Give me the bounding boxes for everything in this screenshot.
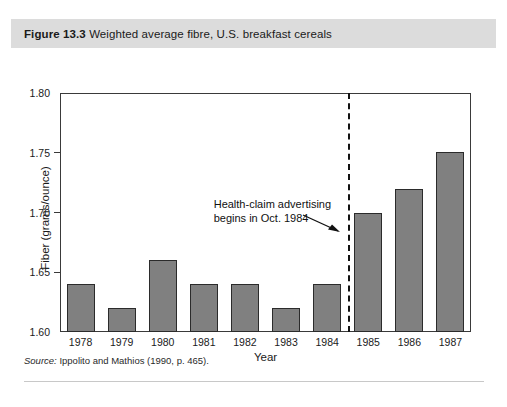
bar-1982: [231, 284, 259, 332]
annotation-line-1: Health-claim advertising: [214, 197, 331, 211]
y-tick-label: 1.65: [0, 266, 50, 278]
x-tick-label: 1980: [151, 336, 174, 348]
y-tick-mark: [54, 272, 61, 273]
bar-1985: [354, 213, 382, 333]
bar-1978: [67, 284, 95, 332]
y-tick-label: 1.75: [0, 147, 50, 159]
annotation-arrow-icon: [302, 214, 348, 236]
x-tick-label: 1986: [398, 336, 421, 348]
bar-1984: [313, 284, 341, 332]
y-tick-mark: [54, 152, 61, 153]
bar-1981: [190, 284, 218, 332]
figure-container: Figure 13.3 Weighted average fibre, U.S.…: [11, 11, 496, 383]
bar-1980: [149, 260, 177, 332]
x-tick-label: 1985: [357, 336, 380, 348]
x-tick-label: 1981: [192, 336, 215, 348]
x-tick-label: 1978: [69, 336, 92, 348]
bar-1983: [272, 308, 300, 332]
x-tick-label: 1987: [439, 336, 462, 348]
bar-1979: [108, 308, 136, 332]
figure-title-bar: Figure 13.3 Weighted average fibre, U.S.…: [11, 19, 496, 48]
x-tick-label: 1979: [110, 336, 133, 348]
figure-title-text: Weighted average fibre, U.S. breakfast c…: [89, 28, 332, 40]
x-tick-label: 1983: [274, 336, 297, 348]
chart-plot-area: Fiber (grams/ounce) 1.801.751.701.651.60…: [11, 48, 496, 348]
y-tick-label: 1.70: [0, 207, 50, 219]
figure-source: Source: Ippolito and Mathios (1990, p. 4…: [24, 355, 209, 366]
source-label: Source:: [24, 355, 57, 366]
bar-1987: [436, 152, 464, 332]
figure-number: Figure 13.3: [24, 28, 86, 40]
event-marker-line: [348, 93, 350, 332]
figure-bottom-divider: [24, 381, 484, 382]
y-tick-label: 1.60: [0, 326, 50, 338]
x-tick-label: 1984: [315, 336, 338, 348]
y-tick-label: 1.80: [0, 87, 50, 99]
source-citation: Ippolito and Mathios (1990, p. 465).: [57, 355, 209, 366]
x-tick-label: 1982: [233, 336, 256, 348]
bar-1986: [395, 189, 423, 332]
y-tick-mark: [54, 212, 61, 213]
figure-title: Figure 13.3 Weighted average fibre, U.S.…: [24, 28, 332, 40]
